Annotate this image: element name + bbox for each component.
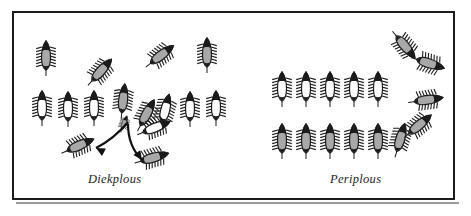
arrow-breakthrough-left bbox=[96, 122, 128, 156]
caption-periplous: Periplous bbox=[330, 172, 381, 187]
arrow-breakthrough-right bbox=[128, 124, 142, 160]
arrow-layer bbox=[0, 0, 471, 216]
caption-diekplous: Diekplous bbox=[88, 172, 141, 187]
naval-tactics-figure: Diekplous Periplous bbox=[0, 0, 471, 216]
